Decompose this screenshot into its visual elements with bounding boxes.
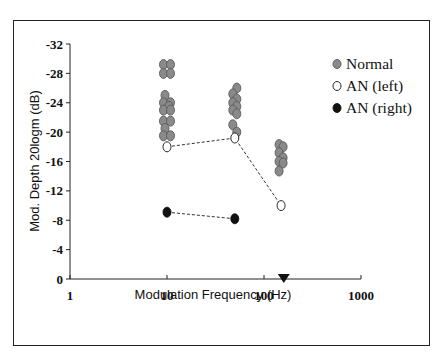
an-right-data-point xyxy=(231,214,239,224)
legend-entry-label: Normal xyxy=(346,55,393,72)
normal-data-point xyxy=(167,105,175,115)
y-tick-label: -12 xyxy=(46,183,63,198)
connecting-lines xyxy=(167,138,281,219)
y-tick-label: -24 xyxy=(46,95,64,110)
x-axis-label: Modulation Frequency (Hz) xyxy=(135,287,292,302)
legend-entry-label: AN (right) xyxy=(346,99,412,117)
scatter-plot: 0-4-8-12-16-20-24-28-321101001000 Normal… xyxy=(0,0,443,361)
y-tick-label: -16 xyxy=(46,154,64,169)
an-left-data-point xyxy=(163,142,171,152)
y-tick-label: 0 xyxy=(57,272,64,287)
y-tick-label: -8 xyxy=(52,213,63,228)
dashed-connector-line xyxy=(167,212,235,219)
y-axis-label: Mod. Depth 20logm (dB) xyxy=(27,90,42,232)
an-left-data-point xyxy=(277,201,285,211)
y-tick-label: -20 xyxy=(46,125,63,140)
legend: NormalAN (left)AN (right) xyxy=(333,55,412,117)
x-tick-label: 1 xyxy=(67,288,74,303)
legend-entry-label: AN (left) xyxy=(346,77,403,95)
legend-marker-icon xyxy=(333,60,341,69)
dashed-connector-line xyxy=(167,138,281,206)
data-points xyxy=(160,60,290,283)
axes: 0-4-8-12-16-20-24-28-321101001000 xyxy=(46,37,374,304)
y-tick-label: -4 xyxy=(52,242,63,257)
x-tick-label: 1000 xyxy=(348,288,374,303)
legend-marker-icon xyxy=(333,82,341,91)
y-tick-label: -32 xyxy=(46,37,63,52)
legend-marker-icon xyxy=(333,104,341,113)
an-right-data-point xyxy=(163,207,171,217)
an-left-data-point xyxy=(231,133,239,143)
normal-data-point xyxy=(275,166,283,176)
normal-data-point xyxy=(167,131,175,141)
y-tick-label: -28 xyxy=(46,66,64,81)
normal-data-point xyxy=(233,109,241,119)
normal-data-point xyxy=(167,68,175,78)
